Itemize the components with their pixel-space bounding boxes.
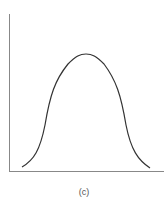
figure-caption: (c) [0,187,168,197]
bell-curve [22,54,150,168]
bell-curve-figure [0,0,168,210]
